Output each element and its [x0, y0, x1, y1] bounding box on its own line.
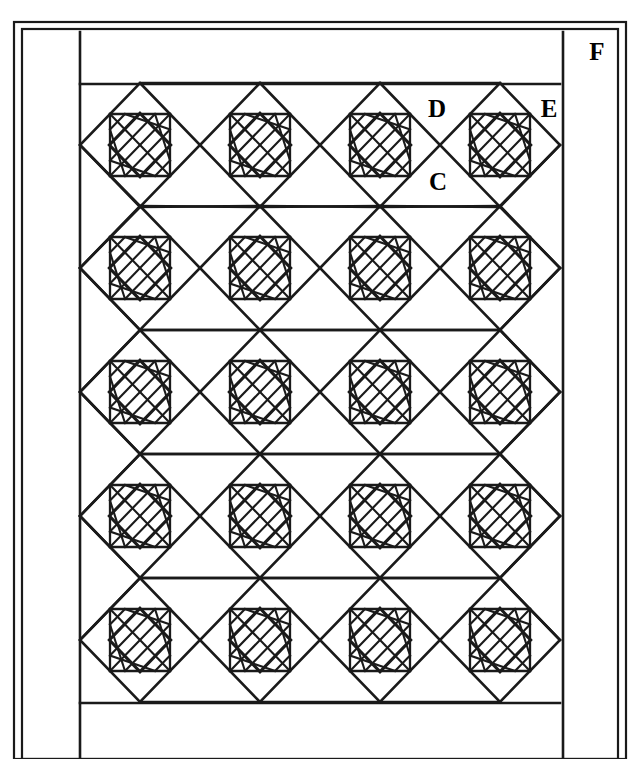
label-F: F — [589, 38, 604, 65]
setting-diagonal — [380, 206, 500, 207]
label-D: D — [428, 95, 446, 122]
quilt-diagram: CDEF — [0, 0, 640, 759]
setting-diagonal — [140, 206, 260, 207]
setting-diagonal — [260, 206, 380, 207]
quilt-diagram-canvas: CDEF — [0, 0, 640, 759]
label-E: E — [541, 95, 558, 122]
label-C: C — [429, 168, 447, 195]
